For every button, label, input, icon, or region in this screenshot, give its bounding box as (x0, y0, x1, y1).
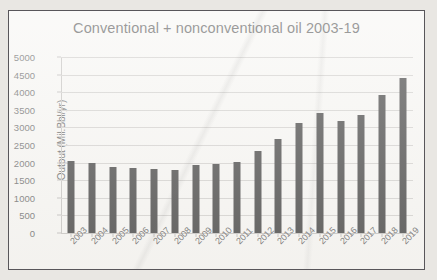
bar-2016 (337, 121, 344, 233)
bar-2014 (296, 123, 303, 233)
y-tick-label: 3000 (8, 122, 35, 133)
y-tick-label: 1000 (8, 192, 35, 203)
gridline (61, 92, 413, 93)
y-tick-label: 4000 (8, 87, 35, 98)
y-tick-label: 1500 (8, 175, 35, 186)
plot-area (61, 57, 413, 233)
bar-2005 (109, 167, 116, 233)
y-tick-label: 3500 (8, 104, 35, 115)
bar-2007 (151, 169, 158, 233)
chart-figure: Conventional + nonconventional oil 2003-… (8, 10, 425, 270)
chart-title: Conventional + nonconventional oil 2003-… (9, 20, 424, 36)
bar-2009 (192, 165, 199, 233)
bar-2019 (399, 78, 406, 233)
bar-2018 (378, 95, 385, 233)
bar-2017 (358, 115, 365, 233)
gridline (61, 57, 413, 58)
bar-2010 (213, 164, 220, 233)
bar-2003 (68, 161, 75, 234)
y-tick-label: 0 (8, 228, 35, 239)
gridline (61, 75, 413, 76)
y-tick-label: 2000 (8, 157, 35, 168)
bar-2012 (254, 151, 261, 233)
y-tick-label: 5000 (8, 52, 35, 63)
bar-2004 (89, 163, 96, 233)
bar-2013 (275, 139, 282, 233)
bar-2011 (234, 162, 241, 233)
y-tick-label: 2500 (8, 140, 35, 151)
bar-2006 (130, 168, 137, 233)
gridline (61, 110, 413, 111)
y-tick-label: 4500 (8, 69, 35, 80)
bar-2008 (171, 170, 178, 233)
bar-2015 (316, 113, 323, 233)
y-tick-label: 500 (8, 210, 35, 221)
